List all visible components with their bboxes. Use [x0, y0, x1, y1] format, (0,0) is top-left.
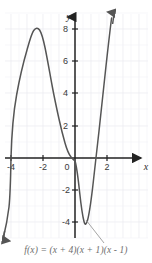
x-tick-label-0: 0	[64, 162, 69, 172]
curve-arrow-up-right	[113, 13, 115, 24]
y-tick-label--2: -2	[62, 185, 70, 195]
y-tick-label-8: 8	[63, 24, 68, 34]
curve-arrow-down-left	[3, 231, 4, 240]
cubic-function-plot: -4 -2 0 2 2 4 6 8 -2 -4 y x	[0, 0, 152, 263]
function-graph-figure: -4 -2 0 2 2 4 6 8 -2 -4 y x f(x) = (x + …	[0, 0, 152, 263]
x-tick-label--2: -2	[39, 162, 47, 172]
x-axis-label: x	[143, 161, 149, 172]
y-tick-label-2: 2	[63, 121, 68, 131]
y-axis-label: y	[66, 11, 72, 22]
y-tick-label-4: 4	[63, 88, 68, 98]
y-tick-label-6: 6	[63, 56, 68, 66]
x-tick-label-2: 2	[104, 162, 109, 172]
annotation-leader-line	[86, 220, 104, 243]
y-tick-label--4: -4	[62, 217, 70, 227]
cubic-curve	[4, 18, 112, 237]
function-caption: f(x) = (x + 4)(x + 1)(x - 1)	[0, 243, 152, 257]
